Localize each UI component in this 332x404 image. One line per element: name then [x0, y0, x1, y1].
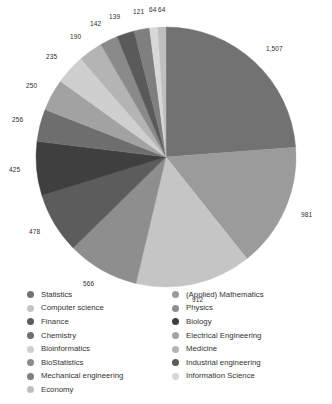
pie-slice-value-label: 478	[29, 229, 40, 236]
pie-slice-value-label: 425	[9, 167, 20, 174]
legend-color-dot-icon	[27, 318, 34, 325]
pie-slice-value-label: 121	[133, 9, 144, 16]
pie-slice-value-label: 142	[90, 21, 101, 28]
legend-item[interactable]: Chemistry	[27, 329, 123, 343]
legend-item-label: BioStatistics	[41, 359, 83, 367]
legend-color-dot-icon	[172, 359, 179, 366]
legend-color-dot-icon	[27, 291, 34, 298]
legend-color-dot-icon	[172, 332, 179, 339]
legend-item[interactable]: Information Science	[172, 370, 264, 384]
pie-chart-plot-area: 1,50798191256647842525625023519014213912…	[0, 0, 332, 290]
legend-item-label: Medicine	[186, 345, 217, 353]
legend-color-dot-icon	[27, 332, 34, 339]
legend-item[interactable]: Medicine	[172, 342, 264, 356]
legend-color-dot-icon	[172, 373, 179, 380]
legend-color-dot-icon	[172, 346, 179, 353]
legend-item-label: Physics	[186, 304, 213, 312]
legend-item[interactable]: BioStatistics	[27, 356, 123, 370]
legend-column-right: (Applied) MathematicsPhysicsBiologyElect…	[172, 288, 264, 383]
pie-slice-value-label: 250	[26, 83, 37, 90]
legend-color-dot-icon	[27, 305, 34, 312]
legend-color-dot-icon	[27, 359, 34, 366]
legend-color-dot-icon	[27, 346, 34, 353]
legend-item[interactable]: (Applied) Mathematics	[172, 288, 264, 302]
chart-legend: StatisticsComputer scienceFinanceChemist…	[0, 288, 332, 404]
pie-slice-value-label: 981	[301, 212, 312, 219]
legend-item[interactable]: Industrial engineering	[172, 356, 264, 370]
legend-item-label: Mechanical engineering	[41, 372, 123, 380]
legend-item-label: Biology	[186, 318, 212, 326]
legend-item-label: Statistics	[41, 291, 72, 299]
legend-color-dot-icon	[27, 373, 34, 380]
legend-color-dot-icon	[27, 386, 34, 393]
legend-item[interactable]: Mechanical engineering	[27, 370, 123, 384]
pie-slice-value-label: 139	[109, 14, 120, 21]
legend-color-dot-icon	[172, 305, 179, 312]
legend-item[interactable]: Computer science	[27, 302, 123, 316]
legend-item-label: Industrial engineering	[186, 359, 261, 367]
legend-item-label: Chemistry	[41, 332, 76, 340]
pie-slice-value-label: 190	[70, 34, 81, 41]
legend-item-label: Electrical Engineering	[186, 332, 261, 340]
legend-item-label: Bioinformatics	[41, 345, 90, 353]
legend-item[interactable]: Bioinformatics	[27, 342, 123, 356]
pie-slice-value-label: 235	[46, 54, 57, 61]
pie-slice-value-label: 64	[149, 7, 156, 14]
legend-item-label: (Applied) Mathematics	[186, 291, 264, 299]
legend-color-dot-icon	[172, 291, 179, 298]
legend-item[interactable]: Physics	[172, 302, 264, 316]
pie-slice-value-label: 64	[158, 7, 165, 14]
legend-color-dot-icon	[172, 318, 179, 325]
legend-column-left: StatisticsComputer scienceFinanceChemist…	[27, 288, 123, 397]
legend-item-label: Information Science	[186, 372, 255, 380]
legend-item-label: Computer science	[41, 304, 104, 312]
pie-chart-figure: 1,50798191256647842525625023519014213912…	[0, 0, 332, 404]
legend-item-label: Finance	[41, 318, 69, 326]
legend-item[interactable]: Economy	[27, 383, 123, 397]
legend-item[interactable]: Biology	[172, 315, 264, 329]
legend-item[interactable]: Statistics	[27, 288, 123, 302]
pie-slice-value-label: 566	[83, 281, 94, 288]
pie-chart-svg	[0, 0, 332, 290]
legend-item[interactable]: Finance	[27, 315, 123, 329]
pie-slice-value-label: 256	[12, 117, 23, 124]
legend-item[interactable]: Electrical Engineering	[172, 329, 264, 343]
legend-item-label: Economy	[41, 386, 74, 394]
pie-slice-value-label: 1,507	[266, 46, 283, 53]
